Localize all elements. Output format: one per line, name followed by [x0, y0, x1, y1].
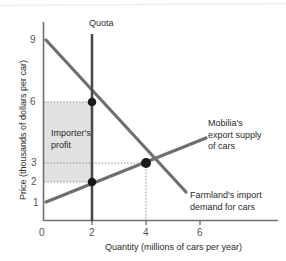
scan-top-rule: [0, 4, 286, 6]
marker-demand-at-quota: [88, 98, 97, 107]
importers-profit-label-line2: profit: [51, 140, 71, 150]
supply-curve-label-line3: of cars: [208, 141, 235, 151]
y-tick-label-3: 3: [31, 158, 37, 168]
quota-label: Quota: [89, 18, 114, 29]
supply-curve-label-line1: Mobilia's: [208, 118, 243, 128]
y-tick-label-9: 9: [30, 35, 36, 45]
marker-supply-at-quota: [88, 178, 97, 187]
y-tick-label-2: 2: [31, 177, 37, 187]
quota-chart-figure: 9 6 3 2 1 0 2 4 6 Price (thousands of do…: [0, 0, 286, 261]
demand-curve-label: Farmland's importdemand for cars: [190, 190, 262, 213]
y-tick-label-1: 1: [33, 198, 39, 208]
x-tick-label-0: 0: [39, 228, 45, 238]
x-tick-label-2: 2: [89, 228, 95, 238]
supply-curve-label-line2: export supply: [208, 130, 262, 140]
supply-curve-label: Mobilia'sexport supplyof cars: [208, 118, 262, 153]
demand-curve-label-line2: demand for cars: [190, 202, 255, 212]
demand-curve-label-line1: Farmland's import: [190, 190, 262, 200]
importers-profit-label-line1: Importer's: [51, 128, 91, 138]
importers-profit-label: Importer'sprofit: [51, 127, 91, 151]
marker-free-trade-equilibrium: [141, 158, 151, 168]
y-tick-label-6: 6: [30, 97, 36, 107]
x-tick-label-4: 4: [143, 228, 149, 238]
y-axis-title: Price (thousands of dollars per car): [18, 60, 28, 200]
x-tick-label-6: 6: [197, 228, 203, 238]
x-axis-title: Quantity (millions of cars per year): [105, 242, 242, 252]
